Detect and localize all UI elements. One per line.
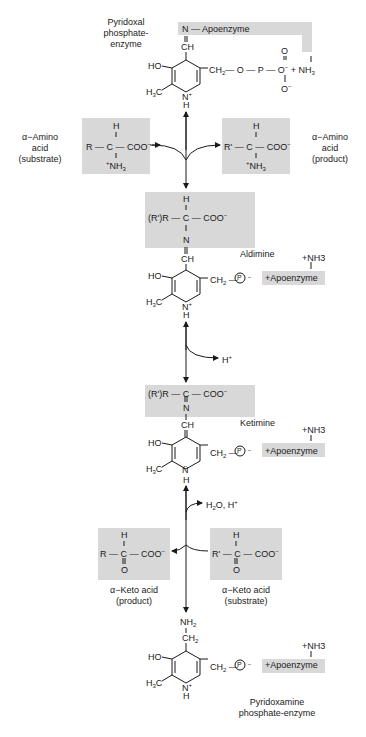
label-amino-acid-product: α−Amino acid (product)	[300, 132, 360, 165]
label-line: α−Amino	[300, 132, 360, 143]
atom-n-lone-pair: N̈	[182, 466, 189, 475]
group-h3c: H3C	[146, 679, 162, 689]
atom-h: H	[183, 195, 190, 204]
atom-n: N —	[182, 25, 200, 34]
label-line: α−Keto acid	[96, 585, 172, 596]
group-h3c: H3C	[146, 465, 162, 475]
reagent-water-h-plus: H2O, H+	[206, 499, 238, 511]
label-line: α−Keto acid	[208, 585, 284, 596]
amino-substrate-formula: R — C — COO−	[86, 141, 151, 152]
label-line: phosphate-	[96, 28, 156, 39]
phosphate-ester: CH2— O — P — O− + NH3	[209, 64, 315, 76]
aldimine-formula: (R')R — C — COO−	[148, 212, 227, 223]
group-ch2: CH2	[182, 634, 198, 644]
atom-o-top: O	[281, 47, 288, 56]
label-line: (substrate)	[208, 596, 284, 607]
label-pyridoxal-phosphate-enzyme: Pyridoxal phosphate- enzyme	[96, 17, 156, 50]
group-h3c: H3C	[146, 88, 162, 98]
label-ketimine: Ketimine	[240, 419, 275, 428]
phosphate-label: P	[237, 661, 242, 668]
group-nh3-plus: +NH3	[302, 642, 325, 651]
ketimine-formula: (R')R — C — COO−	[148, 388, 227, 399]
group-ho: HO	[148, 272, 162, 281]
label-line: acid	[10, 143, 70, 154]
label-line: (substrate)	[10, 154, 70, 165]
group-ho: HO	[148, 653, 162, 662]
group-ch2-p: CH2 — −	[210, 447, 251, 459]
label-keto-acid-product: α−Keto acid (product)	[96, 585, 172, 607]
group-ch: CH	[181, 255, 194, 264]
group-apoenzyme-charged: +Apoenzyme	[265, 274, 318, 283]
group-nh3-plus: +NH3	[302, 426, 325, 435]
atom-o-bottom: O−	[281, 83, 292, 94]
atom-h: H	[183, 692, 190, 701]
atom-h: H	[121, 531, 128, 540]
keto-product-formula: R — C — COO−	[100, 548, 165, 559]
label-line: acid	[300, 143, 360, 154]
label-line: Pyridoxal	[96, 17, 156, 28]
atom-h: H	[233, 531, 240, 540]
label-keto-acid-substrate: α−Keto acid (substrate)	[208, 585, 284, 607]
group-ho: HO	[148, 62, 162, 71]
atom-h: H	[253, 122, 260, 131]
keto-substrate-formula: R' — C — COO−	[212, 548, 279, 559]
group-ch2-p: CH2 — −	[210, 661, 251, 673]
group-ch2-p: CH2 — −	[210, 274, 251, 286]
group-h3c: H3C	[146, 298, 162, 308]
label-line: enzyme	[96, 39, 156, 50]
reagent-h-plus: H+	[222, 354, 232, 365]
atom-h: H	[113, 122, 120, 131]
group-ho: HO	[148, 439, 162, 448]
group-nh3-plus: +NH3	[302, 254, 325, 263]
group-apoenzyme-charged: +Apoenzyme	[265, 447, 318, 456]
atom-h: H	[183, 101, 190, 110]
atom-o: O	[121, 566, 128, 575]
label-line: α−Amino	[10, 132, 70, 143]
phosphate-label: P	[237, 274, 242, 281]
atom-h: H	[183, 476, 190, 485]
atom-n: N	[183, 236, 190, 245]
amino-product-formula: R' — C — COO−	[224, 141, 291, 152]
label-line: (product)	[96, 596, 172, 607]
label-line: phosphate-enzyme	[232, 708, 322, 719]
atom-o: O	[233, 566, 240, 575]
label-line: Pyridoxamine	[232, 697, 322, 708]
phosphate-label: P	[237, 447, 242, 454]
label-pyridoxamine-phosphate-enzyme: Pyridoxamine phosphate-enzyme	[232, 697, 322, 719]
label-aldimine: Aldimine	[240, 250, 275, 259]
atom-n: N	[183, 404, 190, 413]
group-nh3: +NH3	[106, 160, 126, 172]
group-apoenzyme-charged: +Apoenzyme	[265, 661, 318, 670]
group-ch: CH	[181, 43, 194, 52]
label-line: (product)	[300, 154, 360, 165]
group-nh3: +NH3	[246, 160, 266, 172]
group-ch: CH	[181, 421, 194, 430]
group-nh2: NH2	[180, 618, 196, 628]
group-apoenzyme: Apoenzyme	[202, 25, 250, 34]
atom-h: H	[183, 311, 190, 320]
label-amino-acid-substrate: α−Amino acid (substrate)	[10, 132, 70, 165]
